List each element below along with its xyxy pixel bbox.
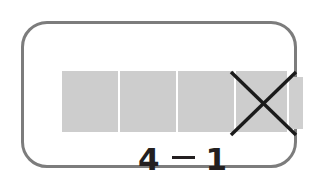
card-frame: 4−1: [21, 21, 297, 168]
equation: 4−1: [45, 137, 317, 179]
minuend: 4: [138, 139, 161, 179]
unit-block-2: [119, 71, 177, 132]
minus-sign-icon: −: [172, 156, 195, 159]
subtrahend: 1: [206, 139, 229, 179]
subtraction-card: 4−1: [0, 0, 317, 185]
unit-block-1: [62, 71, 119, 132]
operator-text: −: [183, 159, 184, 160]
block-separator-1: [118, 71, 120, 132]
cross-out-x-icon: [224, 64, 304, 142]
block-separator-2: [176, 71, 178, 132]
